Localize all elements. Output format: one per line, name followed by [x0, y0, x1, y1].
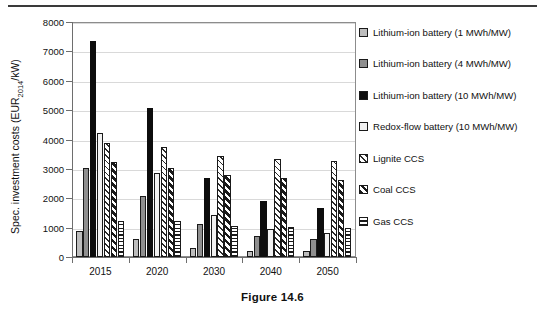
bar	[104, 143, 110, 257]
legend-swatch-icon	[359, 28, 368, 37]
bar	[90, 41, 96, 257]
x-axis-label-2040: 2040	[260, 266, 282, 277]
bar	[118, 221, 124, 257]
bar-group-2040	[242, 22, 299, 257]
legend-item[interactable]: Redox-flow battery (10 MWh/MW)	[359, 121, 543, 133]
bar-group-2050	[299, 22, 356, 257]
bar	[254, 236, 260, 257]
figure-caption-text: Figure 14.6	[241, 291, 304, 303]
bar	[154, 173, 160, 257]
figure-caption: Figure 14.6	[0, 291, 545, 303]
legend-item-label: Lithium-ion battery (4 MWh/MW)	[373, 58, 511, 69]
y-tick-label: 6000	[24, 75, 64, 86]
legend-item[interactable]: Lithium-ion battery (10 MWh/MW)	[359, 89, 543, 101]
legend-swatch-icon	[359, 154, 368, 163]
bar	[345, 228, 351, 257]
bar	[83, 168, 89, 257]
legend-item[interactable]: Coal CCS	[359, 184, 543, 196]
legend-swatch-icon	[359, 122, 368, 131]
y-tick-label: 7000	[24, 46, 64, 57]
y-axis-title: Spec. investment costs (EUR2014/kW)	[9, 32, 24, 262]
legend-swatch-icon	[359, 185, 368, 194]
y-tick-label: 4000	[24, 134, 64, 145]
bar	[174, 221, 180, 257]
legend-swatch-icon	[359, 59, 368, 68]
bar-group-2030	[186, 22, 243, 257]
bar-series-layer	[72, 22, 356, 257]
bar	[310, 239, 316, 257]
legend-item[interactable]: Lignite CCS	[359, 152, 543, 164]
bar	[317, 208, 323, 257]
bar	[217, 156, 223, 257]
header-rule	[8, 5, 537, 7]
y-axis-title-prefix: Spec. investment costs (EUR	[9, 97, 21, 234]
legend-item-label: Lithium-ion battery (10 MWh/MW)	[373, 90, 516, 101]
bar	[161, 147, 167, 257]
legend-item-label: Coal CCS	[373, 184, 416, 195]
legend-item-label: Gas CCS	[373, 216, 414, 227]
bar	[274, 159, 280, 257]
x-axis-line	[72, 257, 357, 258]
x-tick-mark	[129, 257, 130, 263]
y-tick-label: 5000	[24, 105, 64, 116]
y-tick-label: 1000	[24, 222, 64, 233]
legend-item[interactable]: Lithium-ion battery (1 MWh/MW)	[359, 26, 543, 38]
chart-legend: Lithium-ion battery (1 MWh/MW)Lithium-io…	[359, 26, 543, 247]
y-tick-label: 2000	[24, 193, 64, 204]
bar	[288, 227, 294, 257]
x-tick-mark	[356, 257, 357, 263]
bar	[260, 201, 266, 257]
legend-item-label: Lignite CCS	[373, 153, 424, 164]
x-tick-mark	[72, 257, 73, 263]
legend-item-label: Lithium-ion battery (1 MWh/MW)	[373, 27, 511, 38]
figure-14-6: 010002000300040005000600070008000 Spec. …	[0, 0, 545, 313]
bar	[224, 175, 230, 257]
bar	[338, 180, 344, 257]
bar	[211, 215, 217, 257]
bar	[168, 168, 174, 257]
y-tick-label: 0	[24, 252, 64, 263]
y-axis-title-sub: 2014	[16, 81, 25, 98]
x-axis-label-2020: 2020	[146, 266, 168, 277]
x-axis-label-2030: 2030	[203, 266, 225, 277]
legend-swatch-icon	[359, 217, 368, 226]
legend-swatch-icon	[359, 91, 368, 100]
x-tick-mark	[186, 257, 187, 263]
bar	[231, 226, 237, 257]
x-tick-mark	[299, 257, 300, 263]
bar	[147, 108, 153, 257]
bar	[97, 133, 103, 257]
y-axis-title-suffix: /kW)	[9, 59, 21, 81]
x-axis-label-2050: 2050	[316, 266, 338, 277]
legend-item[interactable]: Gas CCS	[359, 215, 543, 227]
x-tick-mark	[242, 257, 243, 263]
bar	[140, 196, 146, 257]
bar	[267, 229, 273, 257]
legend-item[interactable]: Lithium-ion battery (4 MWh/MW)	[359, 58, 543, 70]
legend-item-label: Redox-flow battery (10 MWh/MW)	[373, 121, 517, 132]
bar	[133, 239, 139, 257]
x-axis-label-2015: 2015	[89, 266, 111, 277]
bar	[281, 178, 287, 257]
bar	[111, 162, 117, 257]
bar	[331, 161, 337, 257]
bar	[324, 233, 330, 257]
bar-group-2020	[129, 22, 186, 257]
bar	[204, 178, 210, 257]
bar	[190, 248, 196, 257]
bar	[197, 224, 203, 257]
bar-group-2015	[72, 22, 129, 257]
bar	[76, 231, 82, 257]
y-tick-label: 3000	[24, 163, 64, 174]
y-tick-label: 8000	[24, 17, 64, 28]
